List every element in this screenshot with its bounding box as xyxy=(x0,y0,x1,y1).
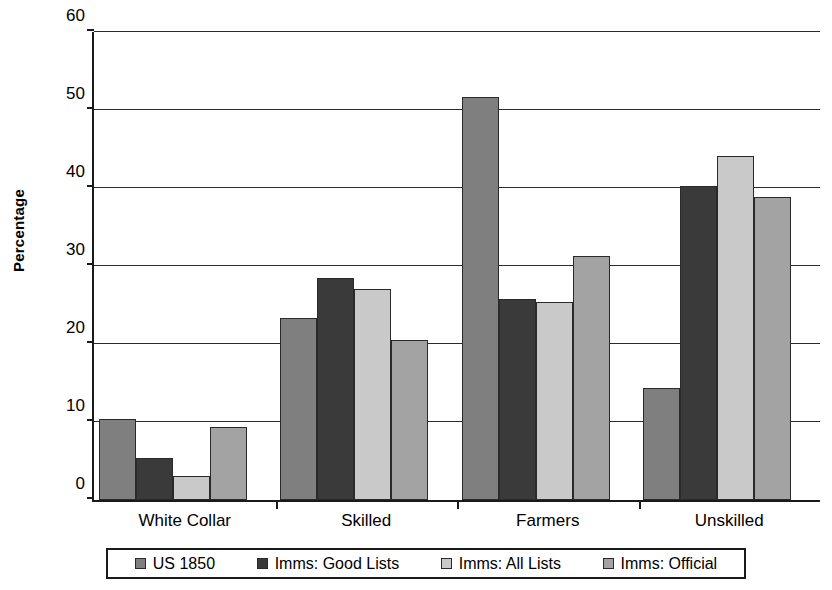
plot-area: 0102030405060 White CollarSkilledFarmers… xyxy=(92,32,820,502)
y-tick-mark xyxy=(87,185,94,187)
legend-item[interactable]: Imms: All Lists xyxy=(441,556,561,572)
legend-item[interactable]: US 1850 xyxy=(135,556,215,572)
bar xyxy=(536,302,573,500)
y-tick-label: 50 xyxy=(66,85,85,102)
y-tick-mark xyxy=(87,497,94,499)
y-tick-label: 20 xyxy=(66,319,85,336)
x-tick-mark xyxy=(639,500,641,509)
y-tick-mark xyxy=(87,419,94,421)
y-tick-label: 10 xyxy=(66,397,85,414)
bar xyxy=(573,256,610,500)
gridline xyxy=(94,109,820,110)
legend-swatch-icon xyxy=(135,558,146,569)
bar xyxy=(317,278,354,500)
y-tick-mark xyxy=(87,263,94,265)
legend-label: Imms: Official xyxy=(621,556,718,572)
legend-swatch-icon xyxy=(603,558,614,569)
x-tick-mark xyxy=(457,500,459,509)
y-tick-mark xyxy=(87,29,94,31)
y-tick-label: 30 xyxy=(66,241,85,258)
legend: US 1850Imms: Good ListsImms: All ListsIm… xyxy=(106,548,746,579)
y-tick-mark xyxy=(87,107,94,109)
bar-chart: Percentage 0102030405060 White CollarSki… xyxy=(0,0,832,590)
bar xyxy=(462,97,499,500)
y-axis-title: Percentage xyxy=(10,171,27,291)
legend-swatch-icon xyxy=(441,558,452,569)
x-axis-label: Skilled xyxy=(341,512,391,529)
bar xyxy=(643,388,680,500)
x-axis-label: Farmers xyxy=(516,512,579,529)
y-tick-mark xyxy=(87,341,94,343)
legend-label: Imms: Good Lists xyxy=(275,556,399,572)
x-tick-mark xyxy=(276,500,278,509)
legend-label: Imms: All Lists xyxy=(459,556,561,572)
bar xyxy=(680,186,717,500)
y-tick-label: 60 xyxy=(66,7,85,24)
bar xyxy=(210,427,247,500)
bar xyxy=(717,156,754,500)
y-tick-label: 0 xyxy=(76,475,85,492)
y-tick-label: 40 xyxy=(66,163,85,180)
x-axis-label: White Collar xyxy=(138,512,231,529)
gridline xyxy=(94,31,820,32)
legend-item[interactable]: Imms: Official xyxy=(603,556,718,572)
bar xyxy=(136,458,173,500)
bar xyxy=(354,289,391,500)
bar xyxy=(754,197,791,500)
legend-label: US 1850 xyxy=(153,556,215,572)
bar xyxy=(280,318,317,500)
bar xyxy=(99,419,136,500)
legend-swatch-icon xyxy=(257,558,268,569)
bar xyxy=(391,340,428,500)
bar xyxy=(499,299,536,500)
legend-item[interactable]: Imms: Good Lists xyxy=(257,556,399,572)
x-axis-label: Unskilled xyxy=(695,512,764,529)
bar xyxy=(173,476,210,500)
